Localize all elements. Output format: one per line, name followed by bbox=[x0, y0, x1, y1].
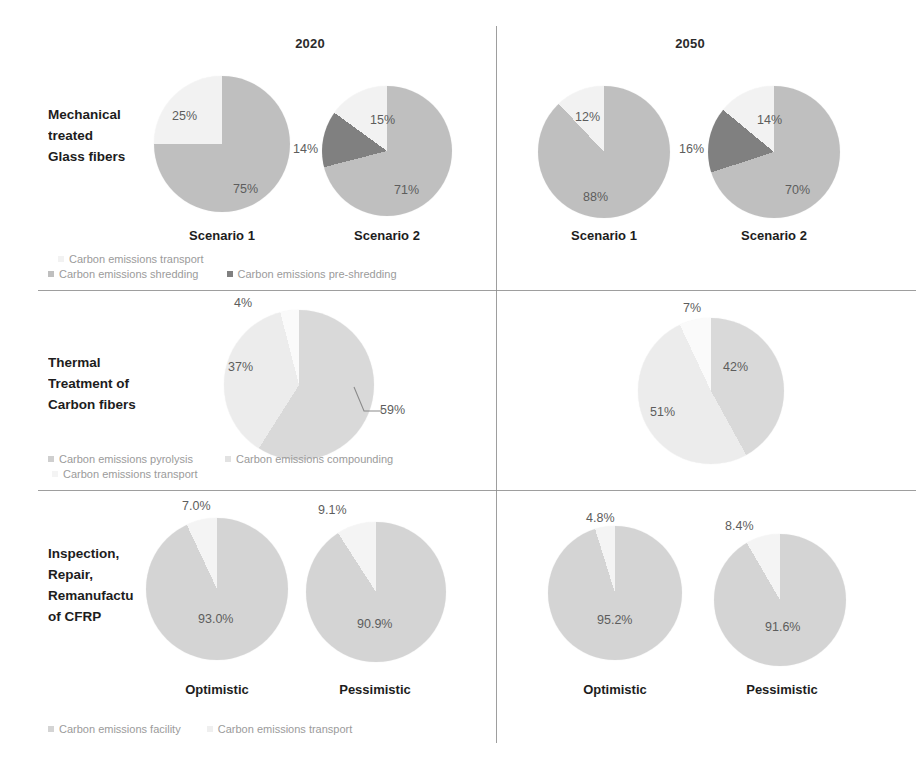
pie-label-4: 4% bbox=[234, 296, 252, 310]
scenario-caption-cfrp-2020-pes: Pessimistic bbox=[305, 682, 445, 697]
row-title-thermal: Thermal Treatment of Carbon fibers bbox=[48, 352, 176, 415]
figure-canvas: 2020 2050 Mechanical treated Glass fiber… bbox=[0, 0, 916, 769]
legend-label: Carbon emissions transport bbox=[63, 468, 198, 480]
legend-cfrp: Carbon emissions facility Carbon emissio… bbox=[48, 722, 352, 735]
legend-mechanical-line2: Carbon emissions shredding Carbon emissi… bbox=[48, 267, 397, 280]
pie-label-7p0: 7.0% bbox=[182, 499, 211, 513]
legend-swatch-icon bbox=[58, 256, 64, 262]
legend-swatch-icon bbox=[48, 456, 54, 462]
column-heading-2020: 2020 bbox=[240, 36, 380, 51]
pie-cfrp-2050-optimistic bbox=[548, 526, 682, 660]
legend-thermal-line2: Carbon emissions transport bbox=[52, 467, 198, 480]
scenario-caption-mechanical-2020-2: Scenario 2 bbox=[317, 228, 457, 243]
pie-mechanical-2050-scenario2 bbox=[708, 86, 840, 218]
scenario-caption-cfrp-2020-opt: Optimistic bbox=[147, 682, 287, 697]
pie-label-15: 15% bbox=[370, 113, 395, 127]
scenario-caption-mechanical-2020-1: Scenario 1 bbox=[152, 228, 292, 243]
pie-mechanical-2020-scenario1 bbox=[154, 76, 290, 212]
legend-item-transport: Carbon emissions transport bbox=[207, 723, 353, 735]
legend-label: Carbon emissions shredding bbox=[59, 268, 198, 280]
legend-item-pre-shredding: Carbon emissions pre-shredding bbox=[227, 268, 397, 280]
row-divider-2 bbox=[38, 490, 916, 491]
legend-item-shredding: Carbon emissions shredding bbox=[48, 268, 198, 280]
row-title-line: Repair, bbox=[48, 564, 160, 585]
legend-label: Carbon emissions facility bbox=[59, 723, 181, 735]
legend-swatch-icon bbox=[48, 271, 54, 277]
legend-item-transport: Carbon emissions transport bbox=[58, 253, 204, 265]
row-title-line: Treatment of bbox=[48, 373, 176, 394]
scenario-caption-cfrp-2050-pes: Pessimistic bbox=[712, 682, 852, 697]
pie-label-25: 25% bbox=[172, 109, 197, 123]
pie-label-12: 12% bbox=[575, 110, 600, 124]
column-heading-2050: 2050 bbox=[620, 36, 760, 51]
pie-label-909: 90.9% bbox=[357, 617, 392, 631]
pie-label-916: 91.6% bbox=[765, 620, 800, 634]
pie-label-88: 88% bbox=[583, 190, 608, 204]
pie-label-952: 95.2% bbox=[597, 613, 632, 627]
pie-cfrp-2020-pessimistic bbox=[306, 522, 446, 662]
scenario-caption-cfrp-2050-opt: Optimistic bbox=[545, 682, 685, 697]
pie-thermal-2050 bbox=[638, 318, 784, 464]
pie-label-42: 42% bbox=[723, 360, 748, 374]
legend-swatch-icon bbox=[48, 726, 54, 732]
row-divider-1 bbox=[38, 290, 916, 291]
pie-label-14: 14% bbox=[293, 142, 318, 156]
scenario-caption-mechanical-2050-1: Scenario 1 bbox=[534, 228, 674, 243]
legend-item-compounding: Carbon emissions compounding bbox=[225, 453, 393, 465]
pie-label-91: 9.1% bbox=[318, 503, 347, 517]
pie-cfrp-2020-optimistic bbox=[146, 518, 288, 660]
pie-mechanical-2020-scenario2 bbox=[322, 86, 452, 216]
legend-swatch-icon bbox=[227, 271, 233, 277]
row-title-line: Thermal bbox=[48, 352, 176, 373]
legend-item-transport: Carbon emissions transport bbox=[52, 468, 198, 480]
pie-label-75: 75% bbox=[233, 182, 258, 196]
legend-swatch-icon bbox=[52, 471, 58, 477]
legend-label: Carbon emissions compounding bbox=[236, 453, 393, 465]
pie-label-48: 4.8% bbox=[586, 511, 615, 525]
legend-label: Carbon emissions pyrolysis bbox=[59, 453, 193, 465]
row-title-inspection: Inspection, Repair, Remanufactu of CFRP bbox=[48, 543, 160, 627]
legend-item-facility: Carbon emissions facility bbox=[48, 723, 181, 735]
pie-cfrp-2050-pessimistic bbox=[714, 534, 846, 666]
pie-label-70: 70% bbox=[785, 183, 810, 197]
row-title-line: of CFRP bbox=[48, 606, 160, 627]
legend-thermal-line1: Carbon emissions pyrolysis Carbon emissi… bbox=[48, 452, 393, 465]
pie-label-37: 37% bbox=[228, 360, 253, 374]
row-title-line: Carbon fibers bbox=[48, 394, 176, 415]
legend-label: Carbon emissions pre-shredding bbox=[238, 268, 397, 280]
row-title-line: Remanufactu bbox=[48, 585, 160, 606]
column-divider bbox=[496, 26, 497, 743]
legend-label: Carbon emissions transport bbox=[218, 723, 353, 735]
pie-label-71: 71% bbox=[394, 183, 419, 197]
scenario-caption-mechanical-2050-2: Scenario 2 bbox=[704, 228, 844, 243]
pie-label-59: 59% bbox=[380, 403, 405, 417]
pie-label-16: 16% bbox=[679, 142, 704, 156]
legend-swatch-icon bbox=[207, 726, 213, 732]
legend-mechanical-line1: Carbon emissions transport bbox=[58, 252, 204, 265]
pie-label-14b: 14% bbox=[757, 113, 782, 127]
row-title-line: Inspection, bbox=[48, 543, 160, 564]
legend-item-pyrolysis: Carbon emissions pyrolysis bbox=[48, 453, 193, 465]
legend-label: Carbon emissions transport bbox=[69, 253, 204, 265]
pie-label-84: 8.4% bbox=[725, 519, 754, 533]
legend-swatch-icon bbox=[225, 456, 231, 462]
pie-label-93: 93.0% bbox=[198, 612, 233, 626]
pie-label-51: 51% bbox=[650, 405, 675, 419]
pie-label-7: 7% bbox=[683, 301, 701, 315]
